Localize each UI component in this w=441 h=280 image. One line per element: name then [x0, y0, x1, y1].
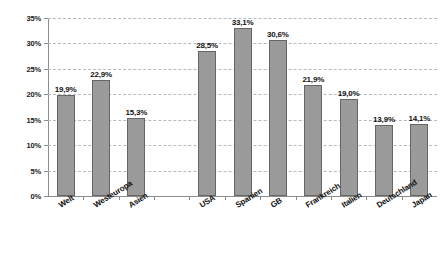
- y-axis-label: 30%: [27, 39, 41, 48]
- bar[interactable]: 19,0%: [340, 99, 358, 196]
- y-axis-tick-mark: [44, 18, 48, 19]
- x-axis-category-label: GB: [269, 196, 284, 210]
- x-axis-tick-mark: [402, 196, 403, 200]
- x-axis-tick-mark: [189, 196, 190, 200]
- y-axis-label: 15%: [27, 115, 41, 124]
- y-axis-label: 5%: [31, 166, 41, 175]
- y-axis-label: 0%: [31, 192, 41, 201]
- y-axis-tick-mark: [44, 94, 48, 95]
- x-axis-tick-mark: [154, 196, 155, 200]
- x-axis-tick-mark: [225, 196, 226, 200]
- y-axis-label: 35%: [27, 14, 41, 23]
- bar-value-label: 22,9%: [90, 70, 112, 79]
- bar-chart: 0%5%10%15%20%25%30%35%19,9%22,9%15,3%28,…: [0, 0, 441, 280]
- x-axis-tick-mark: [366, 196, 367, 200]
- bar-value-label: 19,0%: [338, 89, 360, 98]
- x-axis-tick-mark: [119, 196, 120, 200]
- y-axis-tick-mark: [44, 120, 48, 121]
- bar-value-label: 33,1%: [232, 18, 254, 27]
- x-axis-tick-mark: [260, 196, 261, 200]
- bar-value-label: 13,9%: [373, 115, 395, 124]
- bar[interactable]: 13,9%: [375, 125, 393, 196]
- bar[interactable]: 30,6%: [269, 40, 287, 196]
- y-axis-label: 10%: [27, 141, 41, 150]
- bar-value-label: 28,5%: [196, 41, 218, 50]
- plot-area: 0%5%10%15%20%25%30%35%19,9%22,9%15,3%28,…: [48, 18, 437, 196]
- y-axis-tick-mark: [44, 69, 48, 70]
- bar[interactable]: 33,1%: [234, 28, 252, 196]
- bar-value-label: 30,6%: [267, 30, 289, 39]
- x-axis-tick-mark: [296, 196, 297, 200]
- bar-value-label: 21,9%: [302, 75, 324, 84]
- bar[interactable]: 22,9%: [92, 80, 110, 196]
- bar[interactable]: 21,9%: [304, 85, 322, 196]
- bar-value-label: 15,3%: [126, 108, 148, 117]
- y-axis-label: 20%: [27, 90, 41, 99]
- bar-value-label: 19,9%: [55, 85, 77, 94]
- x-axis-tick-mark: [331, 196, 332, 200]
- y-axis-tick-mark: [44, 145, 48, 146]
- y-axis-tick-mark: [44, 43, 48, 44]
- y-axis-tick-mark: [44, 171, 48, 172]
- bar[interactable]: 28,5%: [198, 51, 216, 196]
- x-axis-tick-mark: [83, 196, 84, 200]
- y-axis-tick-mark: [44, 196, 48, 197]
- bar-value-label: 14,1%: [408, 114, 430, 123]
- bar[interactable]: 19,9%: [57, 95, 75, 196]
- y-axis-label: 25%: [27, 64, 41, 73]
